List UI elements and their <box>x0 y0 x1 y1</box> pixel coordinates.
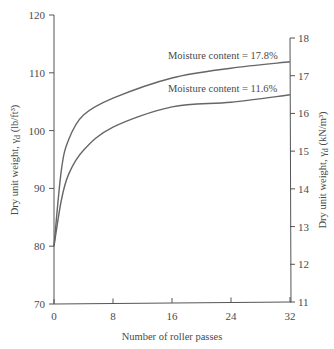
annotation-lower-curve: Moisture content = 11.6% <box>168 83 278 94</box>
annotation-upper-curve: Moisture content = 17.8% <box>168 50 278 61</box>
left-tick-label: 70 <box>34 298 46 310</box>
compaction-chart: 708090100110120111213141516171808162432 … <box>0 0 334 349</box>
left-tick-label: 110 <box>29 67 46 79</box>
y-axis-title-left: Dry unit weight, γd (lb/ft³) <box>9 104 22 215</box>
right-tick-label: 18 <box>298 32 310 44</box>
right-axis-line <box>290 38 291 302</box>
curve-moisture-11-6 <box>54 95 290 246</box>
left-tick-label: 100 <box>29 125 46 137</box>
right-tick-label: 13 <box>298 221 310 233</box>
x-tick-label: 24 <box>226 310 238 322</box>
x-tick-label: 32 <box>285 310 296 322</box>
right-tick-label: 14 <box>298 183 310 195</box>
right-tick-label: 16 <box>298 107 310 119</box>
left-tick-label: 90 <box>34 182 46 194</box>
right-tick-label: 11 <box>298 296 309 308</box>
right-tick-label: 15 <box>298 145 310 157</box>
right-tick-label: 17 <box>298 70 310 82</box>
left-tick-label: 80 <box>34 240 46 252</box>
x-axis-title: Number of roller passes <box>122 331 223 342</box>
x-tick-label: 16 <box>167 310 179 322</box>
left-tick-label: 120 <box>29 9 46 21</box>
right-tick-label: 12 <box>298 258 309 270</box>
x-tick-label: 8 <box>110 310 116 322</box>
x-tick-label: 0 <box>51 310 57 322</box>
y-axis-title-right: Dry unit weight, γd (kN/m³) <box>317 111 330 229</box>
